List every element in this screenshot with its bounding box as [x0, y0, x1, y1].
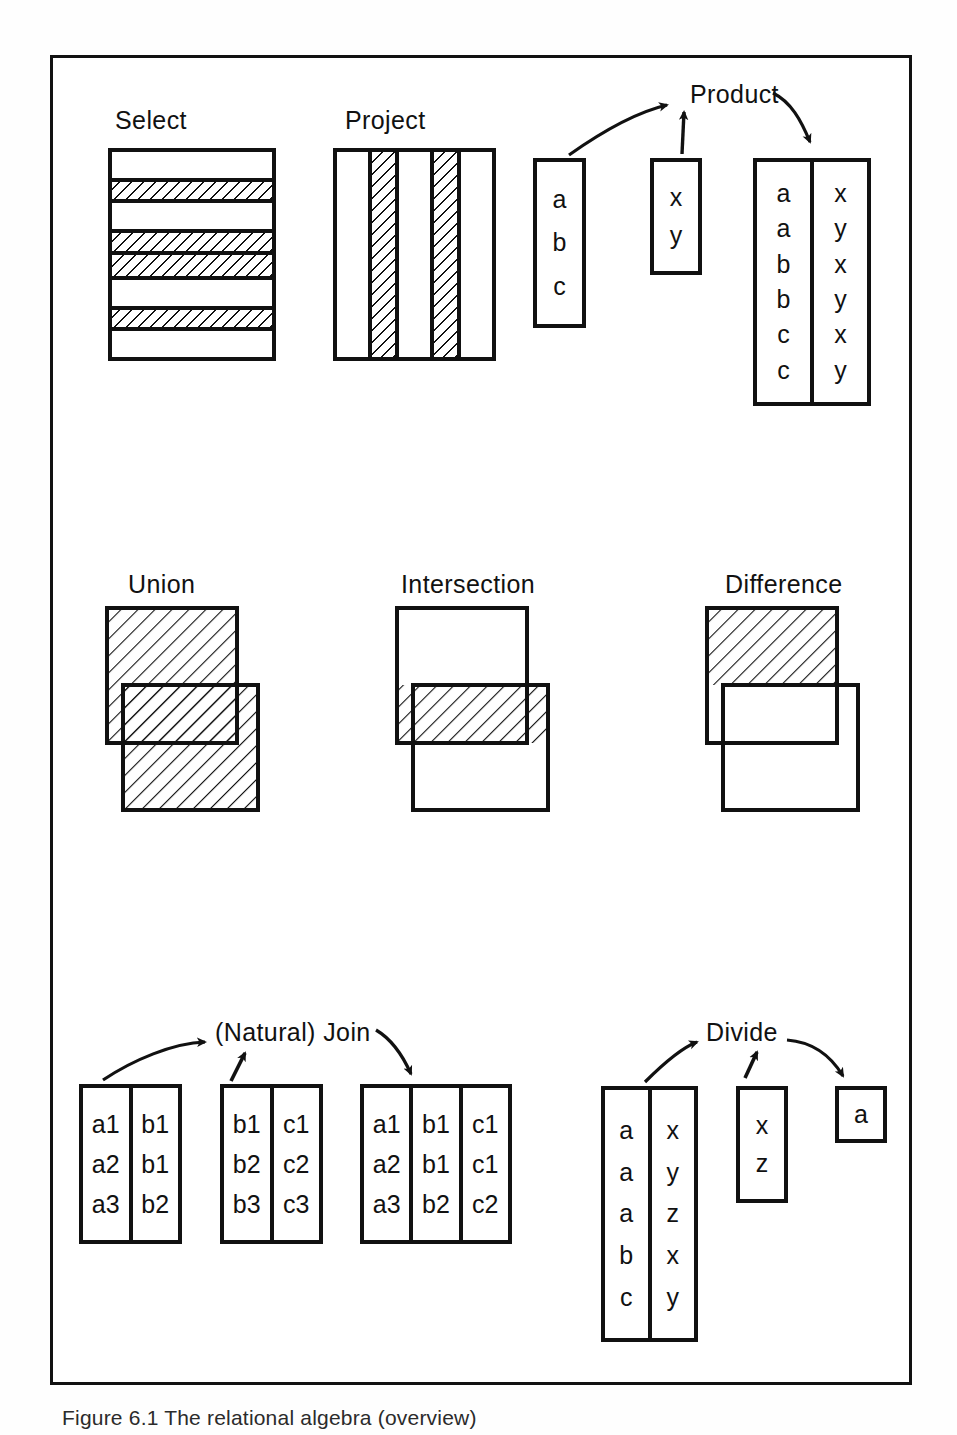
panel-project: Project [283, 58, 573, 388]
cell: c [777, 358, 790, 383]
project-col-3 [399, 152, 430, 357]
select-row-1 [112, 152, 272, 178]
cell: c3 [283, 1192, 309, 1217]
cell: z [756, 1151, 769, 1176]
join-result-col-1: a1 a2 a3 [364, 1088, 409, 1240]
select-row-3 [112, 203, 272, 229]
intersection-title: Intersection [401, 570, 535, 599]
cell: b [553, 230, 567, 255]
divide-result: a [835, 1086, 887, 1143]
cell: a3 [92, 1192, 120, 1217]
divide-operand2-col-1: x z [740, 1090, 784, 1199]
join-operand1-col-1: a1 a2 a3 [83, 1088, 129, 1240]
cell: c [553, 274, 566, 299]
cell: b2 [233, 1152, 261, 1177]
project-col-4 [430, 152, 461, 357]
divide-operand1-col-2: x y z x y [648, 1090, 695, 1338]
panel-difference: Difference [663, 548, 953, 878]
divide-result-col-1: a [839, 1090, 883, 1139]
cell: b3 [233, 1192, 261, 1217]
divide-operand2: x z [736, 1086, 788, 1203]
cell: y [834, 287, 847, 312]
cell: b2 [141, 1192, 169, 1217]
figure-frame: Select Project [50, 55, 912, 1385]
project-col-1 [337, 152, 368, 357]
cell: y [834, 216, 847, 241]
select-row-8 [112, 331, 272, 357]
cell: a3 [373, 1192, 401, 1217]
union-diagram [63, 548, 353, 848]
product-operand1: a b c [533, 158, 586, 328]
cell: a2 [92, 1152, 120, 1177]
cell: b1 [233, 1112, 261, 1137]
cell: a1 [92, 1112, 120, 1137]
cell: x [756, 1113, 769, 1138]
cell: a [619, 1160, 633, 1185]
cell: a2 [373, 1152, 401, 1177]
panel-intersection: Intersection [353, 548, 653, 878]
cell: b1 [141, 1152, 169, 1177]
join-result-col-2: b1 b1 b2 [409, 1088, 458, 1240]
cell: y [667, 1285, 680, 1310]
join-title: (Natural) Join [215, 1018, 371, 1047]
figure-page: Select Project [0, 0, 957, 1435]
cell: c [620, 1285, 633, 1310]
divide-operand1-col-1: a a a b c [605, 1090, 648, 1338]
product-result: a a b b c c x y x y x y [753, 158, 871, 406]
cell: c1 [472, 1112, 498, 1137]
project-diagram [333, 148, 496, 361]
join-result: a1 a2 a3 b1 b1 b2 c1 c1 c2 [360, 1084, 512, 1244]
panel-divide: Divide a a a b c [573, 998, 913, 1318]
cell: b1 [422, 1112, 450, 1137]
cell: y [670, 223, 683, 248]
product-result-col-1: a a b b c c [757, 162, 810, 402]
cell: x [670, 185, 683, 210]
product-result-col-2: x y x y x y [810, 162, 867, 402]
cell: b [619, 1243, 633, 1268]
product-operand2: x y [650, 158, 702, 275]
cell: a [619, 1201, 633, 1226]
select-diagram [108, 148, 276, 361]
join-operand1-col-2: b1 b1 b2 [129, 1088, 179, 1240]
cell: a [777, 216, 791, 241]
product-title: Product [690, 80, 779, 109]
cell: b [777, 252, 791, 277]
cell: x [667, 1243, 680, 1268]
cell: z [667, 1201, 680, 1226]
cell: b2 [422, 1192, 450, 1217]
difference-title: Difference [725, 570, 843, 599]
cell: x [667, 1118, 680, 1143]
join-operand2-col-1: b1 b2 b3 [224, 1088, 270, 1240]
cell: a1 [373, 1112, 401, 1137]
join-operand2: b1 b2 b3 c1 c2 c3 [220, 1084, 323, 1244]
cell: c1 [283, 1112, 309, 1137]
panel-join: (Natural) Join a1 a2 a3 b1 [53, 998, 553, 1298]
project-col-2 [368, 152, 399, 357]
product-operand1-col-1: a b c [537, 162, 582, 324]
divide-title: Divide [706, 1018, 778, 1047]
select-title: Select [115, 106, 187, 135]
cell: c2 [283, 1152, 309, 1177]
select-row-2 [112, 178, 272, 204]
cell: x [834, 252, 847, 277]
figure-caption: Figure 6.1 The relational algebra (overv… [62, 1406, 477, 1430]
cell: a [777, 181, 791, 206]
cell: x [834, 322, 847, 347]
cell: c1 [472, 1152, 498, 1177]
cell: b1 [422, 1152, 450, 1177]
cell: b1 [141, 1112, 169, 1137]
join-operand2-col-2: c1 c2 c3 [270, 1088, 320, 1240]
select-row-7 [112, 306, 272, 332]
cell: c2 [472, 1192, 498, 1217]
cell: x [834, 181, 847, 206]
union-title: Union [128, 570, 195, 599]
cell: y [667, 1160, 680, 1185]
cell: a [854, 1102, 868, 1127]
join-result-col-3: c1 c1 c2 [459, 1088, 508, 1240]
cell: b [777, 287, 791, 312]
join-operand1: a1 a2 a3 b1 b1 b2 [79, 1084, 182, 1244]
cell: y [834, 358, 847, 383]
cell: a [619, 1118, 633, 1143]
cell: a [553, 187, 567, 212]
project-title: Project [345, 106, 426, 135]
